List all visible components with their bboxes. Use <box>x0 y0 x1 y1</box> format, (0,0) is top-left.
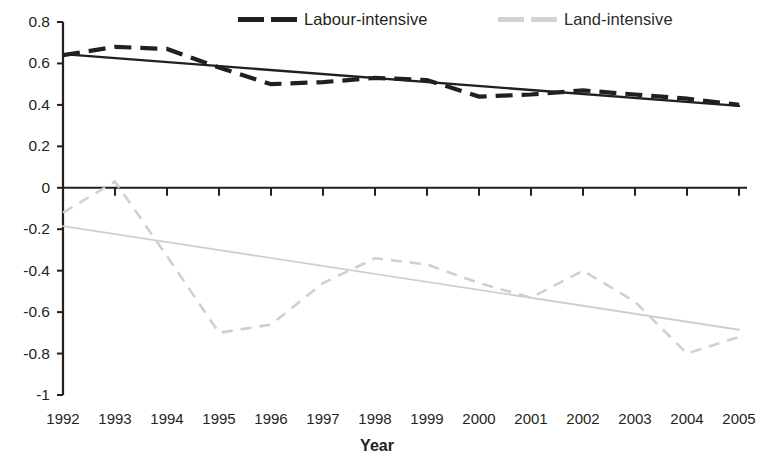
x-axis-tick-label: 1998 <box>349 410 401 427</box>
x-axis-tick-label: 2005 <box>713 410 760 427</box>
x-axis-tick-label: 2004 <box>661 410 713 427</box>
x-axis-tick-label: 1996 <box>245 410 297 427</box>
x-axis-tick-label: 1997 <box>297 410 349 427</box>
y-axis-tick-label: 0.8 <box>4 13 50 31</box>
y-axis-tick-label: 0.6 <box>4 54 50 72</box>
y-axis-tick-label: -0.6 <box>4 303 50 321</box>
x-axis-tick-label: 1999 <box>401 410 453 427</box>
y-axis-tick-label: -0.4 <box>4 262 50 280</box>
y-axis-tick-label: -0.8 <box>4 345 50 363</box>
y-axis-tick-label: -0.2 <box>4 220 50 238</box>
y-axis-tick-label: 0.4 <box>4 96 50 114</box>
series-line-land-intensive <box>63 182 739 354</box>
y-axis-tick-label: -1 <box>4 386 50 404</box>
x-axis-tick-label: 2003 <box>609 410 661 427</box>
x-axis-title: Year <box>0 437 754 455</box>
series-line-labour-intensive <box>63 47 739 105</box>
x-axis-tick-label: 2002 <box>557 410 609 427</box>
trendline-land-intensive-trend <box>63 226 739 330</box>
y-axis-tick-label: 0 <box>4 179 50 197</box>
y-axis-tick-label: 0.2 <box>4 137 50 155</box>
x-axis-tick-label: 1993 <box>89 410 141 427</box>
x-axis-tick-label: 1994 <box>141 410 193 427</box>
x-axis-tick-label: 2000 <box>453 410 505 427</box>
x-axis-tick-label: 1992 <box>37 410 89 427</box>
x-axis-tick-label: 2001 <box>505 410 557 427</box>
x-axis-tick-label: 1995 <box>193 410 245 427</box>
